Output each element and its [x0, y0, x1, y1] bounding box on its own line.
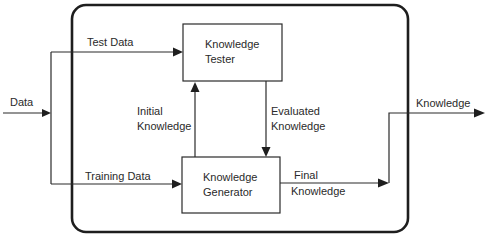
arrowhead-icon: [172, 180, 182, 189]
knowledge-system-diagram: Data Test Data Training Data Knowledge T…: [0, 0, 489, 237]
initial-knowledge-edge: Initial Knowledge: [137, 82, 200, 157]
generator-label-line2: Generator: [203, 186, 253, 198]
data-input-label: Data: [10, 96, 34, 108]
evaluated-knowledge-edge: Evaluated Knowledge: [262, 81, 326, 157]
final-knowledge-edge: Final Knowledge: [280, 169, 389, 197]
arrowhead-icon: [378, 179, 389, 188]
knowledge-output-edge: Knowledge: [389, 97, 485, 183]
initial-knowledge-label-line1: Initial: [137, 105, 163, 117]
evaluated-knowledge-label-line1: Evaluated: [271, 105, 320, 117]
data-input-edge: Data: [3, 96, 51, 117]
knowledge-generator-block: Knowledge Generator: [182, 157, 280, 213]
initial-knowledge-label-line2: Knowledge: [137, 120, 191, 132]
generator-label-line1: Knowledge: [203, 171, 257, 183]
arrowhead-icon: [474, 109, 485, 118]
tester-label-line2: Tester: [205, 53, 235, 65]
arrowhead-icon: [262, 147, 271, 157]
arrowhead-icon: [42, 109, 51, 117]
training-data-label: Training Data: [85, 170, 152, 182]
training-data-edge: Training Data: [51, 170, 182, 189]
test-data-label: Test Data: [87, 36, 134, 48]
knowledge-tester-block: Knowledge Tester: [183, 24, 282, 81]
arrowhead-icon: [191, 82, 200, 92]
final-knowledge-label-line1: Final: [294, 169, 318, 181]
tester-label-line1: Knowledge: [205, 38, 259, 50]
final-knowledge-label-line2: Knowledge: [291, 185, 345, 197]
evaluated-knowledge-label-line2: Knowledge: [271, 120, 325, 132]
arrowhead-icon: [173, 48, 183, 57]
knowledge-output-label: Knowledge: [416, 97, 470, 109]
